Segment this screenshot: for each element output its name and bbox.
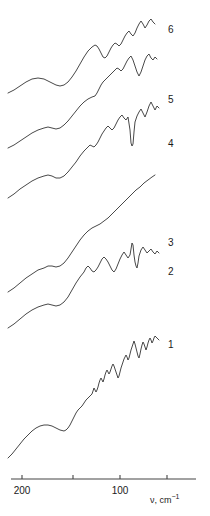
spectrum-curve-4 — [8, 102, 159, 198]
spectrum-curve-5 — [8, 54, 157, 148]
curve-label-3: 3 — [168, 238, 174, 248]
x-axis-title-text: ν, cm — [150, 495, 172, 505]
x-axis-title-exponent: −1 — [172, 493, 180, 500]
spectra-curves — [8, 19, 159, 458]
x-axis-title: ν, cm−1 — [150, 496, 179, 505]
spectrum-curve-2 — [8, 243, 159, 328]
x-axis-ticks — [22, 475, 167, 479]
curve-label-1: 1 — [168, 340, 174, 350]
spectra-plot — [0, 0, 210, 516]
curve-label-4: 4 — [168, 139, 174, 149]
curve-label-5: 5 — [168, 95, 174, 105]
x-axis-tick-label-100: 100 — [112, 486, 129, 496]
spectrum-curve-1 — [8, 336, 159, 458]
curve-label-2: 2 — [168, 267, 174, 277]
x-axis — [11, 475, 196, 479]
spectra-figure: 654321 200100 ν, cm−1 — [0, 0, 210, 516]
x-axis-tick-label-200: 200 — [14, 486, 31, 496]
curve-label-6: 6 — [168, 25, 174, 35]
spectrum-curve-6 — [8, 19, 155, 93]
